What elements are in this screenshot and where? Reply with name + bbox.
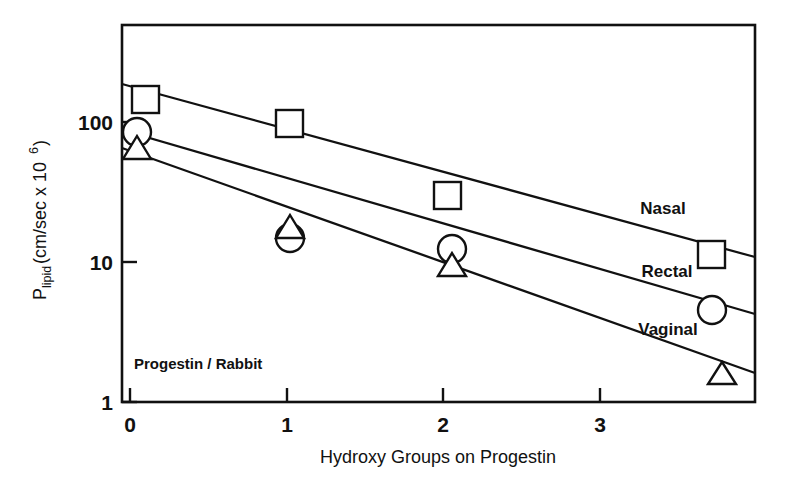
series-label-vaginal: Vaginal xyxy=(638,320,698,339)
y-axis-title-rest: (cm/sec x 10 xyxy=(30,162,50,264)
y-axis-title: P lipid (cm/sec x 10 6 ) xyxy=(27,140,54,300)
series-nasal-markers xyxy=(132,86,725,268)
figure-container: P lipid (cm/sec x 10 6 ) 100 10 1 0 1 2 … xyxy=(0,0,789,486)
x-tick-label-1: 1 xyxy=(281,413,293,436)
data-point-nasal-3 xyxy=(698,241,725,268)
data-point-nasal-0 xyxy=(132,86,159,113)
x-tick-label-3: 3 xyxy=(594,413,606,436)
x-tick-label-2: 2 xyxy=(437,413,449,436)
data-point-nasal-2 xyxy=(434,182,461,209)
y-tick-label-1: 1 xyxy=(101,391,113,414)
data-point-rectal-3 xyxy=(698,296,726,324)
data-point-nasal-1 xyxy=(276,110,303,137)
sample-annotation: Progestin / Rabbit xyxy=(134,355,262,372)
series-label-rectal: Rectal xyxy=(641,262,692,281)
chart-canvas: P lipid (cm/sec x 10 6 ) 100 10 1 0 1 2 … xyxy=(0,0,789,486)
y-axis-title-base: P xyxy=(30,288,50,300)
y-tick-label-100: 100 xyxy=(78,111,113,134)
x-tick-label-0: 0 xyxy=(124,413,136,436)
series-vaginal-markers xyxy=(123,136,736,384)
y-axis-title-close: ) xyxy=(30,140,50,146)
x-axis-title: Hydroxy Groups on Progestin xyxy=(320,447,556,467)
fit-line-nasal xyxy=(122,84,755,257)
series-rectal-markers xyxy=(123,118,726,324)
x-axis-ticks xyxy=(130,388,600,402)
fit-line-rectal xyxy=(122,130,755,314)
y-axis-title-superscript: 6 xyxy=(27,147,41,154)
series-label-nasal: Nasal xyxy=(640,199,685,218)
y-axis-title-subscript: lipid xyxy=(40,266,54,288)
y-tick-label-10: 10 xyxy=(90,251,113,274)
